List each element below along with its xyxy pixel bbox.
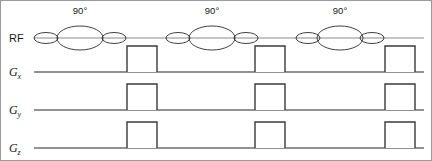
pulse-sequence-canvas: RF 90° 90° 90°: [0, 0, 432, 161]
rf-pulse-3: 90°: [296, 5, 384, 50]
channel-gx: G x: [9, 46, 424, 81]
axis-label-rf: RF: [9, 32, 24, 44]
axis-label-gy-subscript: y: [17, 110, 22, 119]
rf-pulse-2: 90°: [166, 5, 258, 50]
gy-pulse-1: [127, 84, 157, 110]
gx-pulse-2: [255, 46, 285, 72]
gy-pulse-3: [385, 84, 415, 110]
channel-rf: RF 90° 90° 90°: [9, 5, 424, 50]
rf-pulse-2-angle-label: 90°: [205, 5, 220, 16]
channel-gz: G z: [9, 122, 424, 157]
gz-pulse-1: [127, 122, 157, 148]
axis-label-gx-subscript: x: [17, 72, 22, 81]
rf-pulse-1-angle-label: 90°: [73, 5, 88, 16]
gx-pulse-3: [385, 46, 415, 72]
pulse-sequence-diagram: RF 90° 90° 90°: [0, 0, 432, 161]
rf-pulse-1: 90°: [34, 5, 126, 50]
gz-pulse-3: [385, 122, 415, 148]
axis-label-gz-subscript: z: [17, 148, 22, 157]
channel-gy: G y: [9, 84, 424, 119]
gx-pulse-1: [127, 46, 157, 72]
rf-pulse-3-angle-label: 90°: [333, 5, 348, 16]
gz-pulse-2: [255, 122, 285, 148]
diagram-frame: [1, 1, 432, 161]
gy-pulse-2: [255, 84, 285, 110]
